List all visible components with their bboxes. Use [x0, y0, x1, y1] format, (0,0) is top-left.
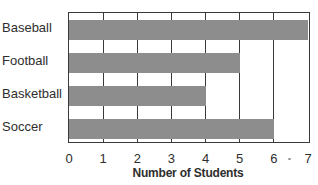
x-tick-label: 6 [270, 151, 277, 166]
stray-mark [288, 158, 291, 160]
bar-basketball [69, 86, 206, 106]
x-tick-label: 7 [304, 151, 311, 166]
bar-football [69, 53, 240, 73]
category-label: Basketball [2, 86, 62, 101]
x-axis-label: Number of Students [0, 166, 318, 180]
x-tick-label: 4 [202, 151, 209, 166]
x-tick-label: 1 [100, 151, 107, 166]
category-label: Baseball [2, 20, 52, 35]
plot-area [68, 12, 310, 143]
x-tick-label: 3 [168, 151, 175, 166]
category-label: Football [2, 53, 48, 68]
category-label: Soccer [2, 119, 42, 134]
x-tick-label: 0 [65, 151, 72, 166]
x-tick-label: 5 [236, 151, 243, 166]
bar-soccer [69, 119, 274, 139]
x-tick-label: 2 [134, 151, 141, 166]
bar-baseball [69, 20, 308, 40]
